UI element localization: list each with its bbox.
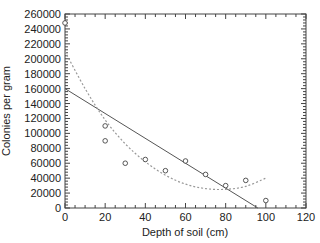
x-tick-label: 0 <box>62 211 68 223</box>
x-axis-ticks: 020406080100120 <box>62 14 315 223</box>
data-point <box>183 159 188 164</box>
data-point <box>203 172 208 177</box>
data-point <box>223 183 228 188</box>
x-tick-label: 100 <box>257 211 275 223</box>
y-tick-label: 0 <box>55 202 61 214</box>
y-tick-label: 220000 <box>24 38 61 50</box>
y-tick-label: 120000 <box>24 112 61 124</box>
y-tick-label: 160000 <box>24 83 61 95</box>
y-tick-label: 180000 <box>24 68 61 80</box>
y-tick-label: 140000 <box>24 98 61 110</box>
x-axis-title: Depth of soil (cm) <box>142 226 228 238</box>
data-points <box>63 21 268 203</box>
linear-fit-line <box>65 89 258 208</box>
data-point <box>264 198 269 203</box>
y-tick-label: 100000 <box>24 127 61 139</box>
x-tick-label: 120 <box>297 211 315 223</box>
data-point <box>63 21 68 26</box>
y-tick-label: 60000 <box>30 157 61 169</box>
fit-lines <box>65 51 266 208</box>
data-point <box>143 157 148 162</box>
data-point <box>123 161 128 166</box>
x-tick-label: 40 <box>139 211 151 223</box>
y-tick-label: 260000 <box>24 8 61 20</box>
scatter-chart: 0200004000060000800001000001200001400001… <box>0 0 320 243</box>
y-tick-label: 240000 <box>24 23 61 35</box>
y-axis-title: Colonies per gram <box>0 66 12 156</box>
data-point <box>243 178 248 183</box>
data-point <box>103 124 108 129</box>
data-point <box>163 168 168 173</box>
y-tick-label: 80000 <box>30 142 61 154</box>
y-axis-ticks: 0200004000060000800001000001200001400001… <box>24 8 306 214</box>
x-tick-label: 60 <box>179 211 191 223</box>
x-tick-label: 80 <box>220 211 232 223</box>
y-tick-label: 20000 <box>30 187 61 199</box>
data-point <box>103 139 108 144</box>
x-tick-label: 20 <box>99 211 111 223</box>
y-tick-label: 40000 <box>30 172 61 184</box>
y-tick-label: 200000 <box>24 53 61 65</box>
